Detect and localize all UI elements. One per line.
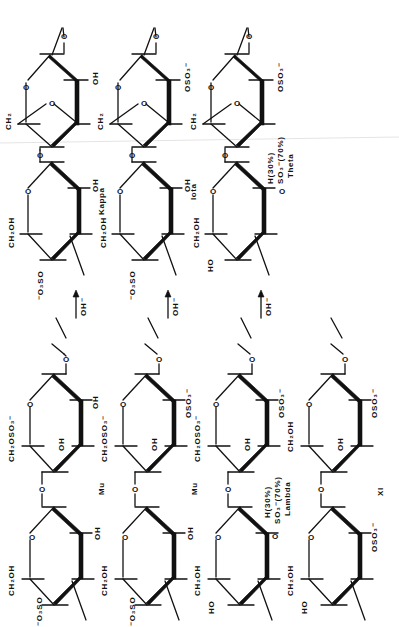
- kappa-ch2: CH₂: [4, 112, 13, 130]
- kappa-anhydro-o: O: [49, 99, 55, 108]
- mu-upper-ring: [22, 374, 94, 472]
- iota-c2-oso3: OSO₃⁻: [183, 63, 192, 92]
- iota-anhydro-o: O: [141, 99, 147, 108]
- iota-glycosidic-o: O: [153, 32, 159, 41]
- xi-lower-oso3: OSO₃⁻: [370, 523, 379, 552]
- theta-lower-ring-o: O: [210, 187, 216, 196]
- nu-upper-oso3: OSO₃⁻: [184, 389, 193, 418]
- mu-structure: O O OH OH CH₂OSO₃⁻ O Mu O OH CH₂OH ⁻O₃SO: [7, 344, 106, 626]
- xi-lower-ring: [301, 507, 373, 605]
- lambda-ch2oso3: CH₂OSO₃⁻: [193, 415, 202, 462]
- nu-lower-ring-o: O: [122, 533, 128, 542]
- lambda-h30: H(30%): [263, 486, 272, 518]
- kappa-glycosidic-o: O: [61, 32, 67, 41]
- kappa-galactose-ring: [20, 162, 92, 260]
- lambda-ch2oh: CH₂OH: [193, 565, 202, 596]
- xi-link-o: O: [318, 485, 324, 494]
- theta-anhydro-o: O: [234, 99, 240, 108]
- iota-ring-o: O: [115, 83, 121, 92]
- lambda-upper-oso3: OSO₃⁻: [277, 389, 286, 418]
- lambda-lower-ring: [208, 507, 280, 605]
- theta-ring-o: O: [208, 83, 214, 92]
- kappa-ch2oh: CH₂OH: [7, 217, 16, 248]
- xi-label: XI: [376, 487, 385, 496]
- lambda-ho: HO: [207, 600, 216, 614]
- theta-structure: O O O OSO₃⁻ CH₂ O O O H(30%) SO₃⁻(70%) C…: [189, 28, 295, 338]
- lambda-lower-ring-o: O: [215, 533, 221, 542]
- lambda-structure: O O OSO₃⁻ OH CH₂OSO₃⁻ O H(30%) SO₃⁻(70%)…: [193, 344, 292, 620]
- kappa-link-o: O: [37, 151, 43, 160]
- kappa-o3so: ⁻O₃SO: [36, 271, 45, 300]
- theta-ch2: CH₂: [189, 112, 198, 130]
- theta-link-o: O: [222, 151, 228, 160]
- xi-c3-oh: OH: [336, 437, 345, 451]
- lambda-link-o: O: [225, 485, 231, 494]
- kappa-structure: O O O OH CH₂ O O OH CH₂OH ⁻O₃SO OH⁻ Kapp…: [4, 28, 106, 338]
- kappa-c2-oh: OH: [91, 71, 100, 85]
- xi-lower-ring-o: O: [308, 533, 314, 542]
- lambda-upper-ring: [208, 374, 280, 472]
- lambda-upper-ring-o: O: [213, 400, 219, 409]
- theta-c2-oso3: OSO₃⁻: [276, 63, 285, 92]
- mu-ch2oso3: CH₂OSO₃⁻: [7, 415, 16, 462]
- nu-o3so: ⁻O₃SO: [128, 597, 137, 626]
- kappa-ring-o: O: [23, 83, 29, 92]
- kappa-label: Kappa: [97, 188, 106, 215]
- lambda-top-o: O: [249, 355, 255, 364]
- xi-structure: O O OSO₃⁻ OH CH₂OH O XI O OSO₃⁻ CH₂OH HO: [286, 344, 385, 620]
- kappa-arrow-head-icon: [73, 290, 79, 297]
- xi-ch2oh-upper: CH₂OH: [286, 421, 295, 452]
- iota-oh-minus: OH⁻: [171, 298, 180, 316]
- xi-ch2oh-lower: CH₂OH: [286, 565, 295, 596]
- nu-top-o: O: [156, 355, 162, 364]
- theta-glycosidic-o: O: [246, 32, 252, 41]
- mu-ch2oh: CH₂OH: [7, 565, 16, 596]
- nu-upper-ring: [115, 374, 187, 472]
- kappa-oh-minus: OH⁻: [79, 298, 88, 316]
- theta-ho: HO: [206, 258, 215, 272]
- nu-upper-ring-o: O: [120, 400, 126, 409]
- iota-structure: O O O OSO₃⁻ CH₂ O O OH CH₂OH ⁻O₃SO OH⁻ I…: [96, 28, 198, 338]
- nu-ch2oh: CH₂OH: [100, 565, 109, 596]
- mu-upper-ring-o: O: [27, 400, 33, 409]
- nu-lower-ring: [115, 507, 187, 605]
- lambda-c3-oh: OH: [243, 437, 252, 451]
- nu-label: Mu: [190, 482, 199, 495]
- iota-arrow-head-icon: [165, 290, 171, 297]
- lambda-label: Lambda: [283, 482, 292, 516]
- iota-lower-ring-o: O: [117, 187, 123, 196]
- xi-upper-ring-o: O: [306, 400, 312, 409]
- iota-ch2oh: CH₂OH: [99, 217, 108, 248]
- nu-structure: O O OSO₃⁻ OH CH₂OSO₃⁻ O Mu O OH CH₂OH ⁻O…: [100, 344, 199, 626]
- theta-label: Theta: [286, 154, 295, 178]
- lambda-c2-o: O: [272, 532, 278, 541]
- nu-link-o: O: [132, 485, 138, 494]
- lambda-so3-70: SO₃⁻(70%): [273, 476, 282, 524]
- mu-link-o: O: [39, 485, 45, 494]
- iota-ch2: CH₂: [96, 112, 105, 130]
- xi-upper-oso3: OSO₃⁻: [370, 389, 379, 418]
- mu-c3-oh: OH: [57, 437, 66, 451]
- nu-c3-oh: OH: [150, 437, 159, 451]
- nu-ch2oso3: CH₂OSO₃⁻: [100, 415, 109, 462]
- mu-lower-ring-o: O: [29, 533, 35, 542]
- xi-ho: HO: [300, 600, 309, 614]
- theta-oh-minus: OH⁻: [264, 298, 273, 316]
- nu-lower-oh: OH: [186, 526, 195, 540]
- mu-top-o: O: [63, 355, 69, 364]
- mu-upper-oh: OH: [91, 395, 100, 409]
- mu-o3so: ⁻O₃SO: [35, 597, 44, 626]
- mu-label: Mu: [97, 482, 106, 495]
- iota-o3so: ⁻O₃SO: [128, 271, 137, 300]
- theta-h30: H(30%): [266, 152, 275, 184]
- theta-arrow-head-icon: [258, 290, 264, 297]
- iota-label: Iota: [189, 183, 198, 200]
- theta-so3-70: SO₃⁻(70%): [276, 136, 285, 184]
- theta-ch2oh: CH₂OH: [192, 217, 201, 248]
- iota-galactose-ring: [112, 162, 184, 260]
- kappa-lower-ring-o: O: [25, 187, 31, 196]
- mu-lower-oh: OH: [93, 526, 102, 540]
- xi-top-o: O: [342, 355, 348, 364]
- iota-link-o: O: [129, 151, 135, 160]
- xi-upper-ring: [301, 374, 373, 472]
